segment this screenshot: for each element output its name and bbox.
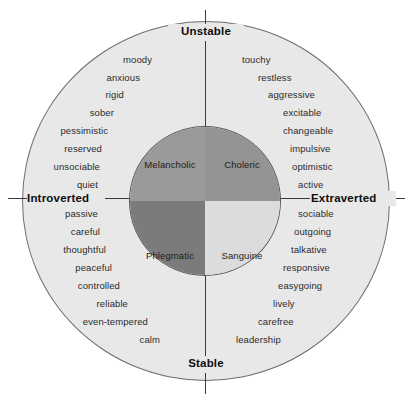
trait-word-sober: sober: [0, 107, 114, 118]
quadrant-label-sanguine: Sanguine: [209, 250, 275, 261]
trait-word-lively: lively: [273, 298, 295, 309]
trait-word-outgoing: outgoing: [294, 226, 331, 237]
quadrant-label-phlegmatic: Phlegmatic: [134, 250, 206, 261]
trait-word-controlled: controlled: [0, 280, 120, 291]
trait-word-impulsive: impulsive: [290, 143, 331, 154]
trait-word-sociable: sociable: [298, 208, 334, 219]
trait-word-peaceful: peaceful: [0, 262, 112, 273]
quadrant-label-melancholic: Melancholic: [134, 159, 206, 170]
trait-word-active: active: [298, 179, 323, 190]
trait-word-calm: calm: [0, 334, 160, 345]
axis-pole-unstable: Unstable: [168, 25, 244, 37]
trait-word-reserved: reserved: [0, 143, 102, 154]
trait-word-touchy: touchy: [242, 54, 271, 65]
trait-word-talkative: talkative: [291, 244, 327, 255]
trait-word-thoughtful: thoughtful: [0, 244, 106, 255]
trait-word-easygoing: easygoing: [278, 280, 322, 291]
trait-word-careful: careful: [0, 226, 100, 237]
trait-word-even-tempered: even-tempered: [0, 316, 148, 327]
trait-word-excitable: excitable: [283, 107, 321, 118]
trait-word-aggressive: aggressive: [268, 89, 315, 100]
trait-word-reliable: reliable: [0, 298, 128, 309]
trait-word-pessimistic: pessimistic: [0, 125, 108, 136]
axis-pole-extraverted: Extraverted: [311, 192, 376, 204]
trait-word-carefree: carefree: [258, 316, 294, 327]
axis-pole-introverted: Introverted: [27, 192, 89, 204]
trait-word-optimistic: optimistic: [292, 161, 333, 172]
trait-word-changeable: changeable: [283, 125, 333, 136]
quadrant-fill-phlegmatic: [130, 201, 205, 275]
trait-word-unsociable: unsociable: [0, 161, 100, 172]
trait-word-anxious: anxious: [0, 72, 140, 83]
trait-word-leadership: leadership: [236, 334, 281, 345]
axis-pole-stable: Stable: [172, 357, 240, 369]
trait-word-rigid: rigid: [0, 89, 124, 100]
trait-word-responsive: responsive: [283, 262, 330, 273]
trait-word-restless: restless: [258, 72, 292, 83]
trait-word-quiet: quiet: [0, 179, 98, 190]
trait-word-passive: passive: [0, 208, 98, 219]
circumplex-diagram: Melancholic Choleric Phlegmatic Sanguine…: [0, 0, 413, 404]
quadrant-fill-sanguine: [205, 201, 280, 275]
quadrant-label-choleric: Choleric: [209, 159, 275, 170]
trait-word-moody: moody: [0, 54, 152, 65]
